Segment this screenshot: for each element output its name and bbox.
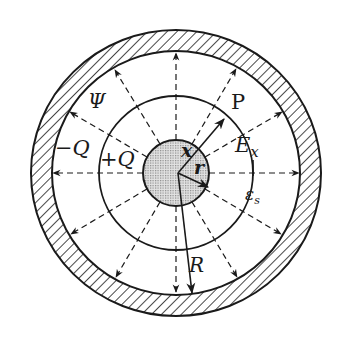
label-p: P bbox=[231, 90, 245, 114]
label-e: Ex bbox=[234, 133, 259, 161]
label-neg-q: −Q bbox=[55, 136, 90, 160]
label-psi: Ψ bbox=[88, 89, 107, 113]
label-eps: εs bbox=[245, 184, 260, 207]
label-x: x bbox=[180, 139, 193, 161]
label-pos-q: +Q bbox=[100, 147, 135, 171]
label-big-r: R bbox=[188, 253, 204, 277]
capacitor-diagram: Ψ −Q +Q P Ex x r εs R bbox=[0, 0, 342, 338]
